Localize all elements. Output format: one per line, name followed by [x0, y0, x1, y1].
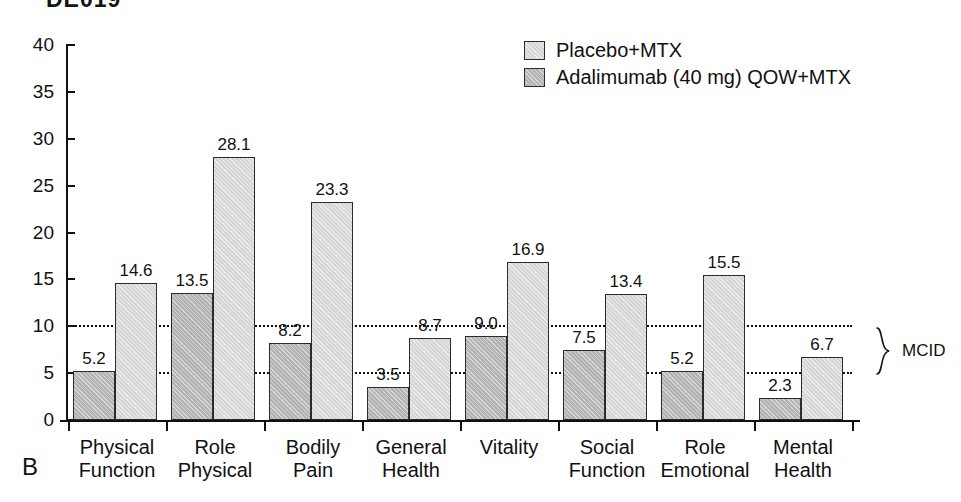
x-axis-tick — [264, 420, 266, 431]
y-tick-label: 10 — [12, 316, 54, 335]
bar-value-label: 13.4 — [609, 273, 642, 290]
y-tick-label: 0 — [12, 410, 54, 429]
legend-item-placebo[interactable]: Placebo+MTX — [524, 40, 851, 60]
legend-label-placebo: Placebo+MTX — [556, 40, 682, 60]
y-tick-label: 25 — [12, 176, 54, 195]
bar-value-label: 13.5 — [175, 272, 208, 289]
mcid-brace-icon — [876, 327, 892, 375]
bar[interactable] — [311, 202, 353, 420]
bar-value-label: 14.6 — [119, 262, 152, 279]
bar[interactable] — [171, 293, 213, 420]
bar[interactable] — [703, 275, 745, 420]
y-tick-label: 30 — [12, 129, 54, 148]
bar-value-label: 16.9 — [511, 241, 544, 258]
bar-value-label: 28.1 — [217, 136, 250, 153]
bar[interactable] — [367, 387, 409, 420]
bar[interactable] — [73, 371, 115, 420]
bar[interactable] — [759, 398, 801, 420]
mcid-label: MCID — [902, 342, 945, 359]
x-axis-tick — [656, 420, 658, 431]
bar-value-label: 9.0 — [474, 315, 498, 332]
bar[interactable] — [213, 157, 255, 420]
x-axis-category-line: Health — [346, 459, 476, 482]
y-tick-label: 15 — [12, 269, 54, 288]
bar-value-label: 15.5 — [707, 254, 740, 271]
legend-swatch-adalimumab-icon — [524, 68, 545, 87]
bar[interactable] — [269, 343, 311, 420]
y-tick-label: 5 — [12, 363, 54, 382]
x-axis-tick — [166, 420, 168, 431]
bar-value-label: 23.3 — [315, 181, 348, 198]
bar-value-label: 5.2 — [670, 350, 694, 367]
bar[interactable] — [801, 357, 843, 420]
plot-area: 5.214.613.528.18.223.33.58.79.016.97.513… — [66, 45, 852, 420]
chart-figure: DE019 0510152025303540 5.214.613.528.18.… — [0, 0, 961, 502]
legend-label-adalimumab: Adalimumab (40 mg) QOW+MTX — [556, 67, 851, 87]
bar-value-label: 3.5 — [376, 366, 400, 383]
x-axis-tick — [362, 420, 364, 431]
bar-value-label: 8.2 — [278, 322, 302, 339]
bar-value-label: 5.2 — [82, 350, 106, 367]
x-axis-tick — [68, 420, 70, 431]
x-axis-category-line: Mental — [738, 436, 868, 459]
x-axis-tick — [754, 420, 756, 431]
bar[interactable] — [465, 336, 507, 420]
bar[interactable] — [115, 283, 157, 420]
x-axis-tick — [852, 420, 854, 431]
legend: Placebo+MTX Adalimumab (40 mg) QOW+MTX — [524, 40, 851, 94]
x-axis-tick — [558, 420, 560, 431]
bar[interactable] — [605, 294, 647, 420]
bar-value-label: 6.7 — [810, 336, 834, 353]
bar-value-label: 7.5 — [572, 329, 596, 346]
bar[interactable] — [507, 262, 549, 420]
x-axis-tick — [460, 420, 462, 431]
y-tick-label: 20 — [12, 223, 54, 242]
y-tick-label: 40 — [12, 35, 54, 54]
y-tick-label: 35 — [12, 82, 54, 101]
legend-swatch-placebo-icon — [524, 41, 545, 60]
x-axis-category-line: Health — [738, 459, 868, 482]
x-axis-category-label: MentalHealth — [738, 436, 868, 482]
figure-title: DE019 — [46, 0, 121, 13]
bar-value-label: 2.3 — [768, 377, 792, 394]
bar[interactable] — [563, 350, 605, 420]
bar[interactable] — [409, 338, 451, 420]
bar-value-label: 8.7 — [418, 317, 442, 334]
panel-letter: B — [22, 455, 38, 479]
bar[interactable] — [661, 371, 703, 420]
legend-item-adalimumab[interactable]: Adalimumab (40 mg) QOW+MTX — [524, 67, 851, 87]
